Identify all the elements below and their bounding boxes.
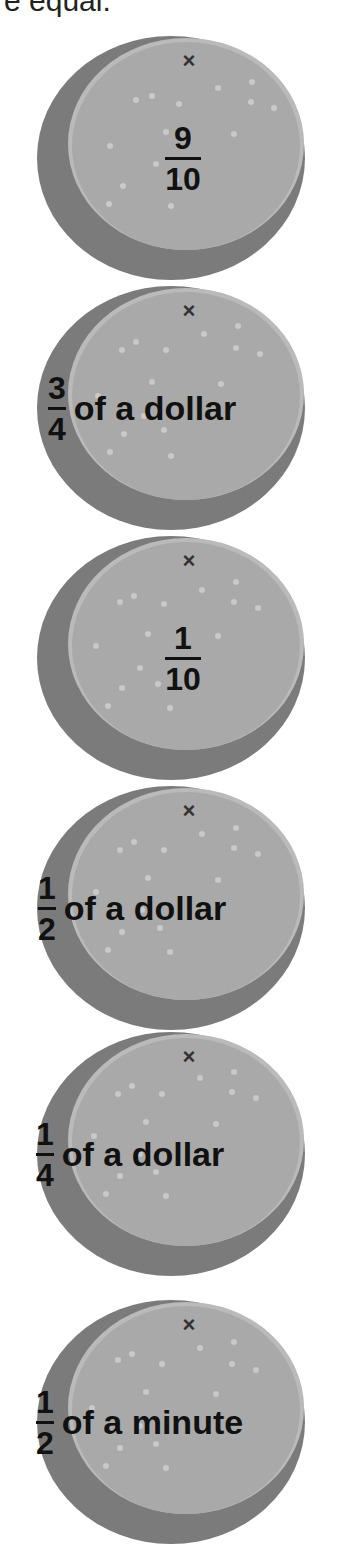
numerator: 1 <box>174 622 192 657</box>
coin-card[interactable]: × 1 2 of a minute <box>36 1298 306 1546</box>
fraction: 1 2 <box>36 1386 54 1459</box>
coin-label: 1 4 of a dollar <box>36 1030 306 1278</box>
coin-label: 1 2 of a dollar <box>36 784 306 1032</box>
fraction-suffix: of a dollar <box>74 389 236 428</box>
fraction: 3 4 <box>48 372 66 445</box>
coin-card[interactable]: × 1 10 <box>36 534 306 782</box>
coin-card[interactable]: × 1 2 of a dollar <box>36 784 306 1032</box>
denominator: 10 <box>165 660 201 695</box>
fraction: 1 2 <box>38 872 56 945</box>
fraction: 1 10 <box>165 622 201 695</box>
coin-label: 1 10 <box>36 534 306 782</box>
coin-card[interactable]: × 1 4 of a dollar <box>36 1030 306 1278</box>
fraction-suffix: of a minute <box>62 1403 243 1442</box>
denominator: 2 <box>38 910 56 945</box>
denominator: 10 <box>165 160 201 195</box>
header-text: re equal. <box>0 0 111 18</box>
denominator: 4 <box>48 410 66 445</box>
numerator: 1 <box>36 1118 54 1153</box>
fraction: 9 10 <box>165 122 201 195</box>
numerator: 3 <box>48 372 66 407</box>
fraction: 1 4 <box>36 1118 54 1191</box>
coin-label: 1 2 of a minute <box>36 1298 306 1546</box>
coin-label: 9 10 <box>36 34 306 282</box>
fraction-suffix: of a dollar <box>64 889 226 928</box>
coin-label: 3 4 of a dollar <box>36 284 306 532</box>
fraction-suffix: of a dollar <box>62 1135 224 1174</box>
numerator: 1 <box>36 1386 54 1421</box>
coin-card[interactable]: × 9 10 <box>36 34 306 282</box>
numerator: 9 <box>174 122 192 157</box>
coin-card[interactable]: × 3 4 of a dollar <box>36 284 306 532</box>
numerator: 1 <box>38 872 56 907</box>
denominator: 4 <box>36 1156 54 1191</box>
denominator: 2 <box>36 1424 54 1459</box>
